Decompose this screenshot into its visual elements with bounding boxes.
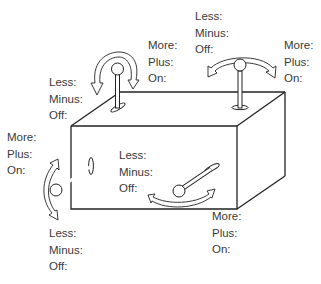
label-plus: Plus: <box>148 54 177 71</box>
label-more: More: <box>212 208 241 225</box>
lever-knob <box>173 185 185 197</box>
label-group-top-left-decrease: Less: Minus: Off: <box>49 74 83 124</box>
label-less: Less: <box>119 147 153 164</box>
label-minus: Minus: <box>119 164 153 181</box>
label-on: On: <box>7 162 36 179</box>
box-bottom-right-edge <box>237 176 285 209</box>
label-on: On: <box>284 70 313 87</box>
label-off: Off: <box>49 107 83 124</box>
lever-knob <box>50 184 62 196</box>
label-off: Off: <box>195 41 229 58</box>
label-on: On: <box>212 241 241 258</box>
label-plus: Plus: <box>7 146 36 163</box>
label-group-front-decrease: Less: Minus: Off: <box>119 147 153 197</box>
lever-top-left[interactable] <box>91 52 139 113</box>
label-group-top-right-decrease: Less: Minus: Off: <box>195 8 229 58</box>
label-group-left-decrease: Less: Minus: Off: <box>49 225 83 275</box>
label-more: More: <box>7 129 36 146</box>
label-less: Less: <box>195 8 229 25</box>
lever-knob <box>234 59 246 71</box>
label-on: On: <box>148 70 177 87</box>
label-more: More: <box>148 37 177 54</box>
label-group-front-increase: More: Plus: On: <box>212 208 241 258</box>
label-group-left-increase: More: Plus: On: <box>7 129 36 179</box>
label-off: Off: <box>49 258 83 275</box>
lever-knob <box>112 63 124 75</box>
label-minus: Minus: <box>49 242 83 259</box>
label-off: Off: <box>119 180 153 197</box>
label-less: Less: <box>49 225 83 242</box>
lever-left-side[interactable] <box>44 158 94 221</box>
label-less: Less: <box>49 74 83 91</box>
lever-shaft <box>116 74 120 108</box>
lever-shaft <box>238 71 242 108</box>
lever-shaft-fill <box>60 166 91 188</box>
label-plus: Plus: <box>284 54 313 71</box>
label-plus: Plus: <box>212 225 241 242</box>
lever-shaft-fill <box>183 169 211 188</box>
label-group-top-left-increase: More: Plus: On: <box>148 37 177 87</box>
label-minus: Minus: <box>49 91 83 108</box>
lever-front[interactable] <box>148 162 220 207</box>
label-group-top-right-increase: More: Plus: On: <box>284 37 313 87</box>
label-minus: Minus: <box>195 25 229 42</box>
lever-top-right[interactable] <box>208 58 276 110</box>
label-more: More: <box>284 37 313 54</box>
